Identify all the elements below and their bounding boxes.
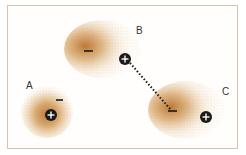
partial-positive-icon (200, 111, 212, 123)
dipole-diagram (0, 0, 246, 155)
label-b: B (136, 25, 143, 36)
label-a: A (26, 80, 33, 91)
molecule-b (64, 20, 140, 78)
partial-positive-icon (119, 53, 131, 65)
label-c: C (222, 86, 229, 97)
molecule-a (21, 86, 73, 138)
molecule-c (148, 81, 224, 139)
partial-positive-icon (45, 109, 57, 121)
